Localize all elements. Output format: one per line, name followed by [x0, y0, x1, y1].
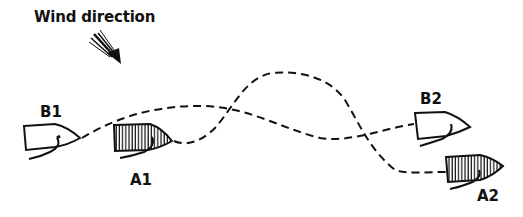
boat-b2: [415, 112, 470, 146]
path-a1-to-a2: [174, 72, 446, 172]
boat-b1: [24, 124, 80, 159]
boat-label-a2: A2: [477, 187, 499, 205]
boat-label-b2: B2: [420, 90, 442, 108]
boat-a2: [443, 152, 508, 189]
wind-direction-label: Wind direction: [34, 8, 155, 26]
boat-label-b1: B1: [40, 103, 62, 121]
boat-label-a1: A1: [130, 171, 152, 189]
sailing-diagram: [0, 0, 523, 217]
wind-arrow-icon: [89, 30, 121, 64]
boat-a1: [110, 120, 175, 158]
